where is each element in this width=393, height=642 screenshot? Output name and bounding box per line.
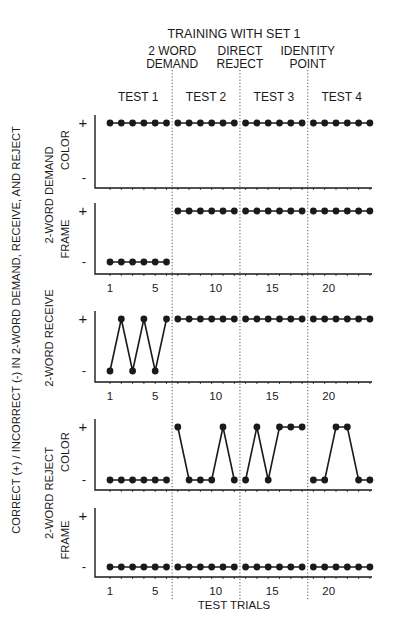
x-tick-label: 5 xyxy=(152,585,158,597)
y-axis-title: CORRECT (+) / INCORRECT (-) IN 2-WORD DE… xyxy=(10,126,22,534)
data-point xyxy=(231,208,238,215)
data-point xyxy=(118,259,125,266)
data-point xyxy=(174,564,181,571)
data-point xyxy=(197,120,204,127)
data-point xyxy=(299,120,306,127)
data-point xyxy=(174,316,181,323)
data-point xyxy=(333,120,340,127)
trial-chart: TRAINING WITH SET 1 2 WORDDEMANDDIRECTRE… xyxy=(0,0,393,642)
data-point xyxy=(344,208,351,215)
data-point xyxy=(197,316,204,323)
y-label-minus: - xyxy=(82,363,86,378)
data-point xyxy=(299,316,306,323)
panel-2-word-receive: +-15101520 xyxy=(79,310,374,402)
data-point xyxy=(129,368,136,375)
data-point xyxy=(118,477,125,484)
data-point xyxy=(129,259,136,266)
x-tick-label: 20 xyxy=(322,282,335,294)
series-line xyxy=(246,427,303,480)
data-point xyxy=(208,477,215,484)
data-point xyxy=(220,424,227,431)
x-tick-label: 20 xyxy=(322,390,335,402)
data-point xyxy=(265,477,272,484)
x-tick-label: 1 xyxy=(107,585,113,597)
data-point xyxy=(152,368,159,375)
data-point xyxy=(231,564,238,571)
data-point xyxy=(367,477,374,484)
panels: +-+-15101520+-15101520+-+-15101520 xyxy=(79,114,374,597)
data-point xyxy=(107,368,114,375)
data-point xyxy=(310,120,317,127)
data-point xyxy=(265,316,272,323)
data-point xyxy=(287,208,294,215)
data-point xyxy=(321,477,328,484)
y-label-plus: + xyxy=(79,310,88,327)
training-marker-label: DIRECT xyxy=(218,44,263,58)
phase-label: TEST 3 xyxy=(254,90,295,104)
panel-label-reject-group: 2-WORD REJECT xyxy=(43,447,55,539)
training-marker-label: 2 WORD xyxy=(148,44,196,58)
data-point xyxy=(107,564,114,571)
data-point xyxy=(287,564,294,571)
data-point xyxy=(208,208,215,215)
data-point xyxy=(287,316,294,323)
data-point xyxy=(141,120,148,127)
data-point xyxy=(355,120,362,127)
data-point xyxy=(310,564,317,571)
phase-dividers xyxy=(172,70,308,600)
data-point xyxy=(344,316,351,323)
data-point xyxy=(333,564,340,571)
x-tick-label: 15 xyxy=(266,585,279,597)
data-point xyxy=(355,477,362,484)
y-label-minus: - xyxy=(82,472,86,487)
data-point xyxy=(299,564,306,571)
data-point xyxy=(321,316,328,323)
data-point xyxy=(163,120,170,127)
data-point xyxy=(220,564,227,571)
data-point xyxy=(254,316,261,323)
y-label-minus: - xyxy=(82,170,86,185)
data-point xyxy=(141,316,148,323)
y-label-minus: - xyxy=(82,254,86,269)
data-point xyxy=(141,259,148,266)
panel-2-word-demand-frame: +-15101520 xyxy=(79,202,374,294)
x-tick-label: 15 xyxy=(266,282,279,294)
panel-label-reject-color: COLOR xyxy=(59,432,71,472)
x-axis-title: TEST TRIALS xyxy=(198,599,271,611)
data-point xyxy=(254,208,261,215)
panel-2-word-reject-color: +- xyxy=(79,418,374,492)
panel-label-receive: 2-WORD RECEIVE xyxy=(43,289,55,387)
data-point xyxy=(287,424,294,431)
data-point xyxy=(107,259,114,266)
data-point xyxy=(355,564,362,571)
data-point xyxy=(310,208,317,215)
data-point xyxy=(321,564,328,571)
data-point xyxy=(186,477,193,484)
data-point xyxy=(231,316,238,323)
data-point xyxy=(129,564,136,571)
x-tick-label: 10 xyxy=(209,390,222,402)
data-point xyxy=(208,564,215,571)
data-point xyxy=(107,120,114,127)
phase-label: TEST 1 xyxy=(118,90,159,104)
x-tick-label: 10 xyxy=(209,585,222,597)
data-point xyxy=(174,208,181,215)
data-point xyxy=(107,477,114,484)
data-point xyxy=(310,477,317,484)
data-point xyxy=(174,424,181,431)
training-marker-label: IDENTITY xyxy=(280,44,335,58)
data-point xyxy=(355,208,362,215)
series-line xyxy=(313,427,370,480)
data-point xyxy=(367,564,374,571)
data-point xyxy=(118,120,125,127)
data-point xyxy=(265,120,272,127)
data-point xyxy=(333,208,340,215)
panel-label-demand-group: 2-WORD DEMAND xyxy=(43,147,55,244)
data-point xyxy=(287,120,294,127)
data-point xyxy=(186,208,193,215)
data-point xyxy=(333,424,340,431)
data-point xyxy=(367,120,374,127)
data-point xyxy=(197,208,204,215)
data-point xyxy=(344,120,351,127)
data-point xyxy=(254,120,261,127)
